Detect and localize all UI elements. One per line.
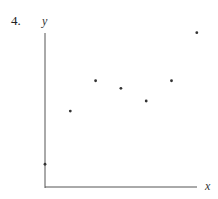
x-axis-label: x — [204, 179, 211, 193]
data-point — [69, 110, 72, 113]
data-point — [94, 79, 97, 82]
data-point — [120, 87, 123, 90]
data-point — [195, 31, 198, 34]
y-axis-label: y — [41, 14, 48, 28]
data-points — [44, 31, 199, 165]
data-point — [170, 79, 173, 82]
scatter-plot: x y — [0, 0, 218, 199]
data-point — [44, 163, 47, 166]
data-point — [145, 100, 148, 103]
